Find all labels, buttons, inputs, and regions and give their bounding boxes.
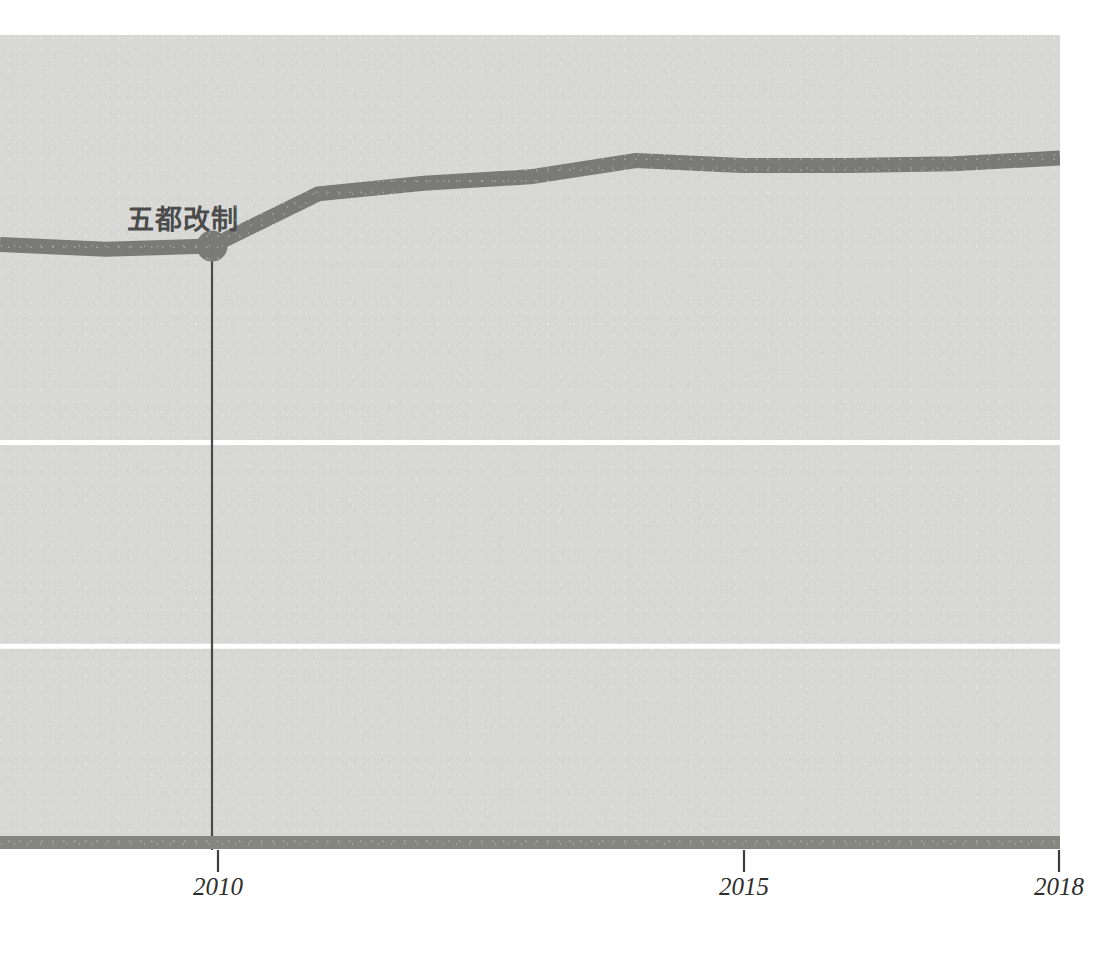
x-tick-label-2010: 2010 <box>193 873 243 901</box>
event-marker[interactable] <box>197 231 228 262</box>
x-tick-label-2018: 2018 <box>1034 873 1084 901</box>
event-annotation-label: 五都改制 <box>127 206 239 233</box>
line-chart-svg <box>0 35 1060 850</box>
chart-figure: 五都改制 2010 2015 2018 <box>0 0 1114 953</box>
x-axis-bar <box>0 836 1060 849</box>
gridlines <box>0 443 1060 851</box>
plot-area: 五都改制 <box>0 35 1060 850</box>
x-tick-label-2015: 2015 <box>719 873 769 901</box>
